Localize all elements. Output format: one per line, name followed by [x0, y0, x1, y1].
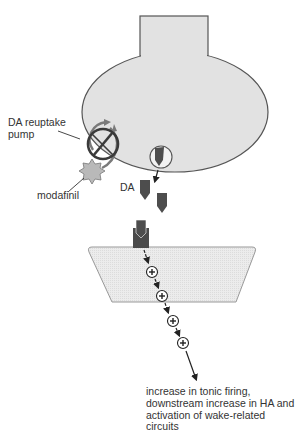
dopamine-molecule-icon: [157, 193, 167, 213]
postsynaptic-neuron: [88, 247, 255, 302]
neuron-soma: [82, 52, 268, 172]
label-line: DA reuptake: [8, 117, 66, 129]
modafinil-label: modafinil: [37, 190, 79, 202]
outcome-label: increase in tonic firing, downstream inc…: [146, 386, 295, 433]
dopamine-receptor: [133, 220, 149, 248]
label-line: pump: [8, 129, 66, 141]
reuptake-pump-label: DA reuptake pump: [8, 117, 66, 140]
presynaptic-neuron: [82, 16, 268, 172]
modafinil-mechanism-diagram: [0, 0, 295, 434]
dopamine-release-site: [150, 146, 172, 181]
modafinil-molecule-icon: [79, 159, 105, 184]
dopamine-label: DA: [120, 182, 135, 194]
dopamine-molecule-icon: [140, 180, 150, 200]
